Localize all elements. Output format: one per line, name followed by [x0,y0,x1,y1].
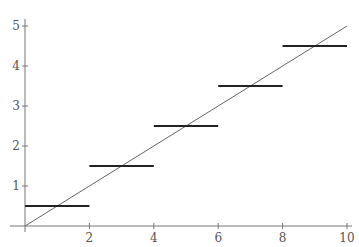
y-tick-label: 3 [12,99,20,113]
plot-area [25,26,347,226]
x-tick-label: 4 [150,231,158,245]
y-tick-label: 1 [12,179,20,193]
x-tick-label: 10 [339,231,354,245]
x-tick-label: 8 [279,231,287,245]
chart: 24681012345 [0,0,359,247]
y-tick-label: 5 [12,19,20,33]
y-tick-label: 2 [12,139,20,153]
x-tick-label: 6 [214,231,222,245]
y-tick-label: 4 [12,59,20,73]
x-tick-label: 2 [86,231,94,245]
